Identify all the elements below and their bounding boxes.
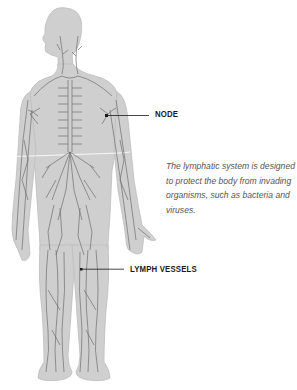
node-label: NODE	[155, 108, 178, 119]
body-silhouette	[12, 8, 156, 381]
caption-text: The lymphatic system is designed to prot…	[166, 159, 296, 217]
lymph-vessels-label: LYMPH VESSELS	[130, 263, 197, 274]
node-marker	[105, 114, 108, 117]
